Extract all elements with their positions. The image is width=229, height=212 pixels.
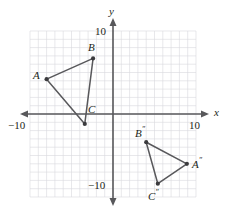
label-a: A [33, 70, 40, 81]
axis-label-y: y [109, 6, 114, 17]
coordinate-plane-svg [0, 0, 229, 212]
label-c2: C″ [148, 189, 159, 202]
vertex-point-b [91, 56, 95, 60]
label-b2-prime-marks: ″ [142, 125, 145, 134]
tick-label-y-10: 10 [95, 26, 106, 37]
vertex-point-a2 [185, 162, 189, 166]
label-b: B [88, 42, 95, 53]
tick-label-x-10: 10 [189, 120, 200, 131]
label-b2: B″ [135, 126, 145, 139]
label-a2: A″ [192, 157, 202, 170]
label-c: C [88, 104, 95, 115]
axis-label-x: x [214, 107, 219, 118]
axes-group [20, 18, 209, 206]
label-c2-prime-marks: ″ [155, 188, 158, 197]
triangles-group [45, 56, 189, 186]
y-axis-arrow-down [110, 198, 117, 206]
vertex-point-b2 [144, 140, 148, 144]
tick-label-y-neg10: −10 [88, 180, 105, 191]
y-axis-arrow-up [110, 18, 117, 26]
coordinate-plane-figure: ABCB″A″C″yx10−10−1010 [0, 0, 229, 212]
label-a2-prime-marks: ″ [199, 156, 202, 165]
vertex-point-a [45, 77, 49, 81]
tick-label-x-neg10: −10 [8, 120, 25, 131]
vertex-point-c2 [156, 182, 160, 186]
vertex-point-c [83, 122, 87, 126]
x-axis-arrow-left [20, 111, 28, 118]
triangle-abc-double-prime [146, 142, 187, 184]
x-axis-arrow-right [201, 111, 209, 118]
